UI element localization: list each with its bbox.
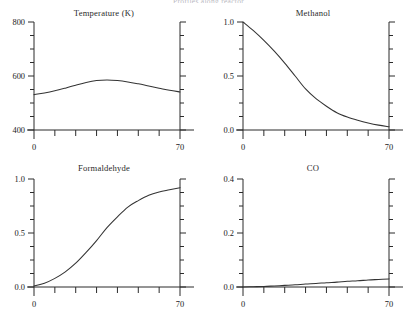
- x-tick-label: 0: [241, 143, 245, 152]
- x-tick-label: 0: [32, 143, 36, 152]
- x-tick-label: 0: [32, 300, 36, 309]
- data-line: [34, 188, 180, 286]
- y-tick-label: 0.5: [224, 72, 234, 81]
- plot-area: 400600800070: [0, 8, 208, 156]
- y-tick-label: 800: [12, 18, 25, 27]
- x-tick-label: 70: [385, 300, 393, 309]
- data-line: [243, 22, 389, 127]
- data-line: [34, 80, 180, 95]
- y-tick-label: 0.0: [15, 283, 25, 292]
- x-tick-label: 70: [176, 143, 184, 152]
- plot-area: 0.00.51.0070: [0, 163, 208, 313]
- figure-canvas: Profiles along reactor Temperature (K) 4…: [0, 0, 417, 316]
- x-tick-label: 0: [241, 300, 245, 309]
- y-tick-label: 1.0: [224, 18, 234, 27]
- data-line: [243, 279, 389, 287]
- subplot-temperature: Temperature (K) 400600800070: [0, 8, 208, 156]
- y-tick-label: 0.5: [15, 229, 25, 238]
- plot-area: 0.00.51.0070: [209, 8, 417, 156]
- subplot-formaldehyde: Formaldehyde 0.00.51.0070: [0, 163, 208, 313]
- y-tick-label: 0.0: [224, 126, 234, 135]
- y-tick-label: 0.2: [224, 229, 234, 238]
- y-tick-label: 600: [12, 72, 25, 81]
- subplot-co: CO 0.00.20.4070: [209, 163, 417, 313]
- x-tick-label: 70: [176, 300, 184, 309]
- y-tick-label: 400: [12, 126, 25, 135]
- y-tick-label: 0.4: [224, 175, 235, 184]
- figure-suptitle: Profiles along reactor: [0, 0, 417, 3]
- subplot-methanol: Methanol 0.00.51.0070: [209, 8, 417, 156]
- y-tick-label: 0.0: [224, 283, 234, 292]
- x-tick-label: 70: [385, 143, 393, 152]
- y-tick-label: 1.0: [15, 175, 25, 184]
- plot-area: 0.00.20.4070: [209, 163, 417, 313]
